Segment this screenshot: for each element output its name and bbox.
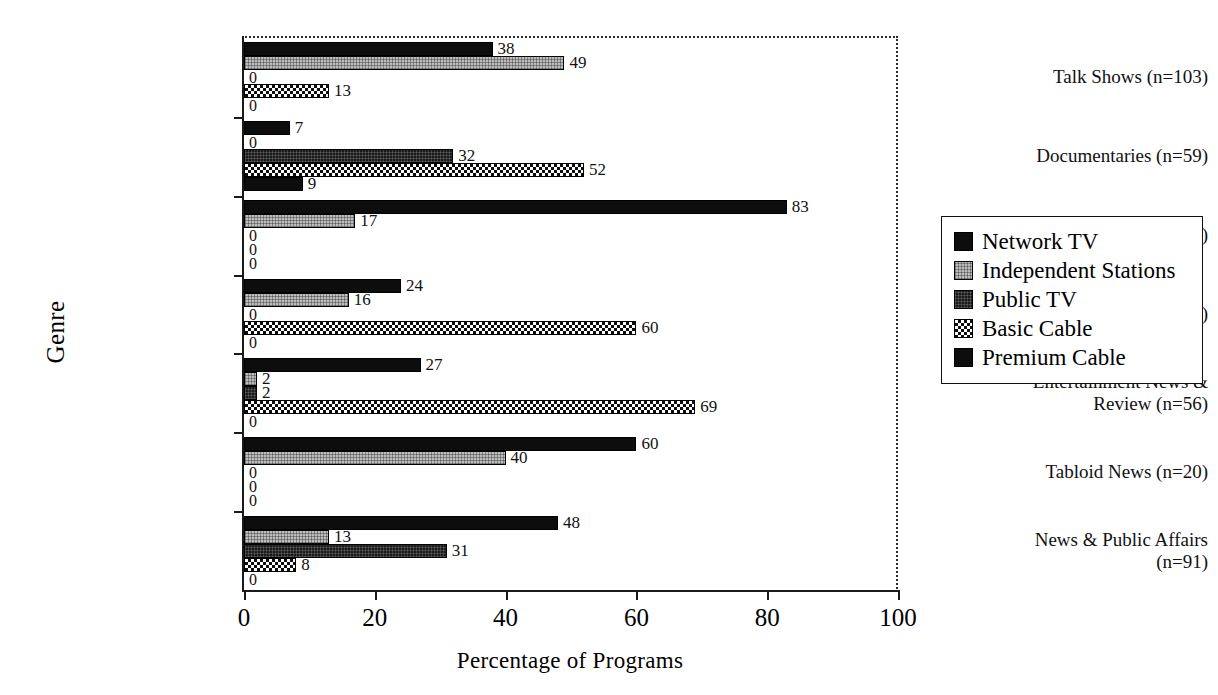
x-axis-tick-label: 20 — [335, 604, 415, 632]
bar-network-tv — [244, 121, 290, 135]
bar-basic-cable — [244, 84, 329, 98]
x-axis-tick-label: 40 — [466, 604, 546, 632]
legend-item: Independent Stations — [954, 257, 1192, 284]
bar-row: 52 — [244, 163, 898, 177]
bar-independent-stations — [244, 56, 564, 70]
bar-value-label: 17 — [360, 212, 377, 229]
y-axis-tick — [234, 196, 244, 198]
bar-value-label: 0 — [249, 334, 257, 351]
bar-row: 32 — [244, 149, 898, 163]
bar-value-label: 40 — [511, 449, 528, 466]
legend-label: Network TV — [982, 228, 1098, 255]
bar-row: 60 — [244, 437, 898, 451]
bar-value-label: 16 — [354, 291, 371, 308]
legend-item: Basic Cable — [954, 315, 1192, 342]
bar-value-label: 8 — [301, 556, 310, 573]
bar-row: 0 — [244, 572, 898, 586]
bar-independent-stations — [244, 214, 355, 228]
bar-value-label: 27 — [426, 356, 443, 373]
bar-row: 8 — [244, 558, 898, 572]
bar-basic-cable — [244, 321, 636, 335]
bar-value-label: 83 — [792, 198, 809, 215]
bar-row: 24 — [244, 279, 898, 293]
bar-row: 0 — [244, 307, 898, 321]
bar-value-label: 0 — [249, 255, 257, 272]
bar-row: 16 — [244, 293, 898, 307]
bar-value-label: 60 — [641, 435, 658, 452]
bar-row: 7 — [244, 121, 898, 135]
bar-value-label: 9 — [308, 175, 317, 192]
bar-network-tv — [244, 516, 558, 530]
bar-network-tv — [244, 437, 636, 451]
legend-label: Premium Cable — [982, 344, 1126, 371]
bar-value-label: 49 — [569, 54, 586, 71]
bar-group: 7032529 — [244, 121, 898, 191]
legend: Network TVIndependent StationsPublic TVB… — [941, 216, 1203, 384]
x-axis-spine — [242, 590, 900, 592]
bar-row: 60 — [244, 321, 898, 335]
legend-swatch-icon — [954, 290, 973, 309]
x-axis-tick — [375, 590, 377, 600]
bar-basic-cable — [244, 163, 584, 177]
bar-group: 24160600 — [244, 279, 898, 349]
bar-value-label: 32 — [458, 147, 475, 164]
x-axis-tick — [767, 590, 769, 600]
bar-row: 0 — [244, 242, 898, 256]
legend-swatch-icon — [954, 319, 973, 338]
bar-value-label: 52 — [589, 161, 606, 178]
bar-row: 13 — [244, 530, 898, 544]
bar-value-label: 13 — [334, 528, 351, 545]
bar-basic-cable — [244, 400, 695, 414]
bar-network-tv — [244, 42, 493, 56]
legend-swatch-icon — [954, 348, 973, 367]
bar-value-label: 0 — [249, 571, 257, 588]
y-axis-tick — [234, 275, 244, 277]
x-axis-title: Percentage of Programs — [242, 648, 898, 674]
bar-row: 49 — [244, 56, 898, 70]
bar-public-tv — [244, 544, 447, 558]
bar-value-label: 31 — [452, 542, 469, 559]
bar-value-label: 7 — [295, 119, 304, 136]
x-axis-tick — [636, 590, 638, 600]
bar-premium-cable — [244, 177, 303, 191]
bar-value-label: 13 — [334, 82, 351, 99]
bar-row: 0 — [244, 479, 898, 493]
bar-value-label: 48 — [563, 514, 580, 531]
bar-row: 13 — [244, 84, 898, 98]
y-axis-category-label: News & Public Affairs (n=91) — [986, 529, 1218, 573]
y-axis-category-label: Documentaries (n=59) — [986, 145, 1218, 167]
y-axis-tick — [234, 117, 244, 119]
x-axis-tick — [898, 590, 900, 600]
legend-item: Network TV — [954, 228, 1192, 255]
bar-independent-stations — [244, 530, 329, 544]
bar-row: 2 — [244, 372, 898, 386]
bar-value-label: 38 — [498, 40, 515, 57]
bar-row: 0 — [244, 256, 898, 270]
bar-value-label: 24 — [406, 277, 423, 294]
bar-row: 17 — [244, 214, 898, 228]
bar-row: 27 — [244, 358, 898, 372]
bar-value-label: 69 — [700, 398, 717, 415]
x-axis-tick — [244, 590, 246, 600]
legend-label: Public TV — [982, 286, 1077, 313]
bar-value-label: 0 — [249, 97, 257, 114]
bar-public-tv — [244, 386, 257, 400]
bar-value-label: 2 — [262, 384, 271, 401]
cut-off-title — [236, 0, 756, 6]
bar-row: 0 — [244, 335, 898, 349]
bar-independent-stations — [244, 293, 349, 307]
bar-row: 0 — [244, 465, 898, 479]
bar-row: 31 — [244, 544, 898, 558]
bar-value-label: 0 — [249, 492, 257, 509]
y-axis-category-label: Tabloid News (n=20) — [986, 461, 1218, 483]
x-axis-tick-label: 0 — [204, 604, 284, 632]
bar-independent-stations — [244, 372, 257, 386]
bar-public-tv — [244, 149, 453, 163]
x-axis-tick-label: 80 — [727, 604, 807, 632]
y-axis-category-label: Talk Shows (n=103) — [986, 66, 1218, 88]
legend-item: Premium Cable — [954, 344, 1192, 371]
bar-group: 8317000 — [244, 200, 898, 270]
legend-label: Basic Cable — [982, 315, 1093, 342]
legend-swatch-icon — [954, 261, 973, 280]
bar-independent-stations — [244, 451, 506, 465]
